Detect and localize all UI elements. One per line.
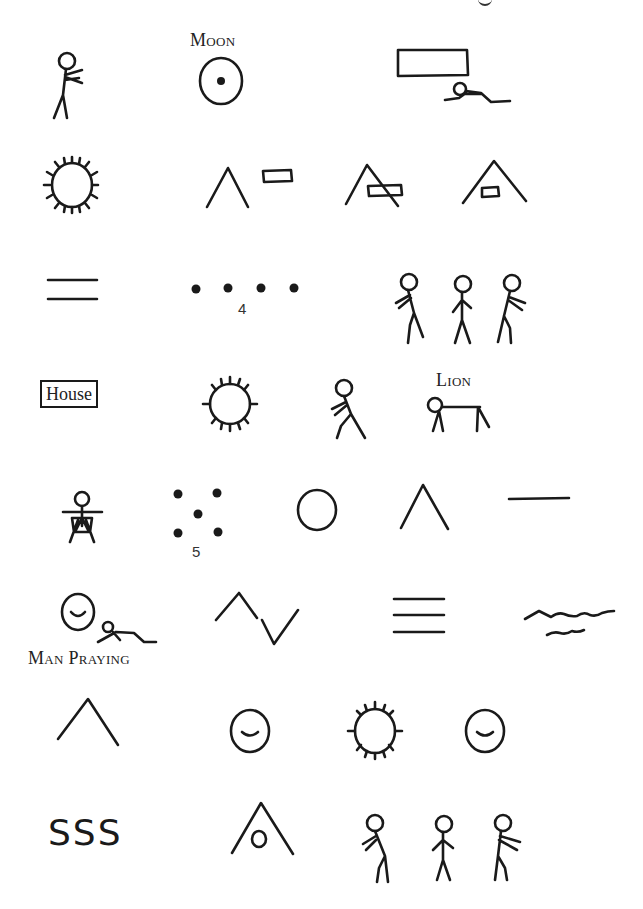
circle-inside-mountain-icon bbox=[228, 800, 298, 860]
lion-icon bbox=[423, 395, 503, 440]
double-line-icon bbox=[45, 275, 100, 305]
man-sitting-icon bbox=[60, 490, 105, 550]
four-label: 4 bbox=[238, 300, 246, 317]
moon-label: Moon bbox=[190, 30, 235, 51]
mountain-icon bbox=[55, 695, 120, 750]
zigzag-icon bbox=[212, 588, 302, 648]
man-praying-icon bbox=[58, 590, 168, 650]
circle-icon bbox=[295, 488, 340, 533]
mountain-crossing-box-icon bbox=[343, 162, 408, 212]
sss-label: SSS bbox=[48, 812, 123, 853]
face-icon bbox=[228, 707, 273, 755]
mountain-icon bbox=[393, 482, 458, 532]
pictograph-page: Moon 4 bbox=[0, 0, 643, 909]
sun-icon bbox=[345, 700, 405, 760]
man-under-box-icon bbox=[395, 48, 525, 108]
lion-label: Lion bbox=[436, 370, 471, 391]
man-walking-icon bbox=[325, 378, 375, 443]
mountain-and-box-icon bbox=[205, 165, 300, 215]
man-pointing-icon bbox=[45, 50, 95, 120]
water-icon bbox=[522, 605, 622, 645]
moon-icon bbox=[198, 56, 246, 106]
triple-line-icon bbox=[390, 595, 450, 640]
sun-icon bbox=[42, 155, 102, 215]
face-icon bbox=[463, 707, 508, 755]
house-label: House bbox=[46, 384, 92, 404]
five-dots-icon bbox=[168, 485, 228, 540]
house-box: House bbox=[40, 380, 98, 408]
single-line-icon bbox=[505, 490, 575, 510]
box-inside-mountain-icon bbox=[460, 158, 530, 208]
three-men-walking-icon bbox=[355, 810, 535, 890]
four-dots-icon bbox=[188, 280, 303, 298]
cropped-heading-fragment bbox=[478, 0, 492, 6]
man-praying-label: Man Praying bbox=[28, 648, 130, 669]
three-men-walking-icon bbox=[390, 270, 535, 350]
five-label: 5 bbox=[192, 543, 200, 560]
sun-icon bbox=[200, 375, 260, 435]
